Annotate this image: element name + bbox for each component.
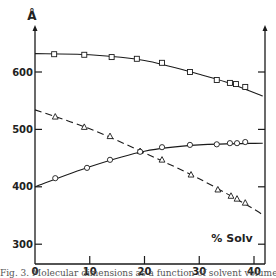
y-unit-label: Å [27, 8, 37, 23]
square-marker [243, 84, 248, 89]
square-marker [52, 52, 57, 57]
square-marker [109, 55, 114, 60]
figure-caption: Fig. 3. Molecular dimensions as a functi… [0, 268, 276, 278]
triangle-marker [159, 157, 165, 163]
circle-marker [84, 165, 89, 170]
triangle-marker [228, 193, 234, 199]
circle-marker [187, 142, 192, 147]
series-squares [35, 52, 263, 96]
circle-marker [234, 141, 239, 146]
triangle-marker [52, 114, 58, 120]
y-tick-label: 300 [12, 239, 33, 250]
y-tick-label: 400 [12, 181, 33, 192]
series-triangles [35, 110, 263, 216]
chart: 300400500600010203040Å% Solv [0, 0, 276, 278]
triangle-marker [242, 200, 248, 206]
square-marker [160, 60, 165, 65]
y-tick-label: 500 [12, 124, 33, 135]
triangle-marker [81, 124, 87, 130]
square-marker [82, 52, 87, 57]
circle-marker [159, 145, 164, 150]
triangles-line [35, 110, 263, 216]
labels-group: 300400500600010203040Å% Solv [12, 8, 261, 277]
circle-marker [107, 157, 112, 162]
square-marker [214, 78, 219, 83]
y-axis-arrow-icon [33, 25, 38, 31]
circle-marker [243, 139, 248, 144]
series-circles [35, 139, 263, 186]
triangle-marker [234, 196, 240, 202]
square-marker [227, 80, 232, 85]
squares-line [35, 54, 263, 96]
triangle-marker [188, 172, 194, 178]
x-axis-title: % Solv [211, 232, 253, 245]
circle-marker [53, 176, 58, 181]
circle-marker [214, 142, 219, 147]
series-group [35, 52, 263, 216]
circles-line [35, 143, 263, 187]
y-axis-right-arrow-icon [263, 25, 268, 31]
square-marker [134, 56, 139, 61]
square-marker [187, 70, 192, 75]
y-tick-label: 600 [12, 67, 33, 78]
circle-marker [227, 141, 232, 146]
square-marker [233, 82, 238, 87]
circle-marker [138, 149, 143, 154]
